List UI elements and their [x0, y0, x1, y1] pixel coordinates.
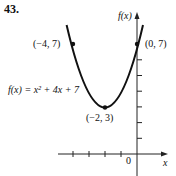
point-left-label: (−4, 7) [33, 38, 60, 49]
y-axis-arrow-icon [135, 12, 140, 19]
point-left [71, 42, 75, 46]
parabola-curve [67, 25, 143, 108]
point-right [135, 42, 139, 46]
equation-label: f(x) = x² + 4x + 7 [8, 84, 79, 95]
y-axis-label: f(x) [118, 10, 132, 21]
x-axis-arrow-icon [161, 152, 168, 157]
point-vertex [103, 105, 107, 109]
point-right-label: (0, 7) [145, 38, 167, 49]
y-ticks [137, 60, 142, 139]
x-axis-label: x [163, 157, 167, 168]
origin-label: 0 [126, 155, 131, 166]
vertex-label: (−2, 3) [86, 112, 113, 123]
